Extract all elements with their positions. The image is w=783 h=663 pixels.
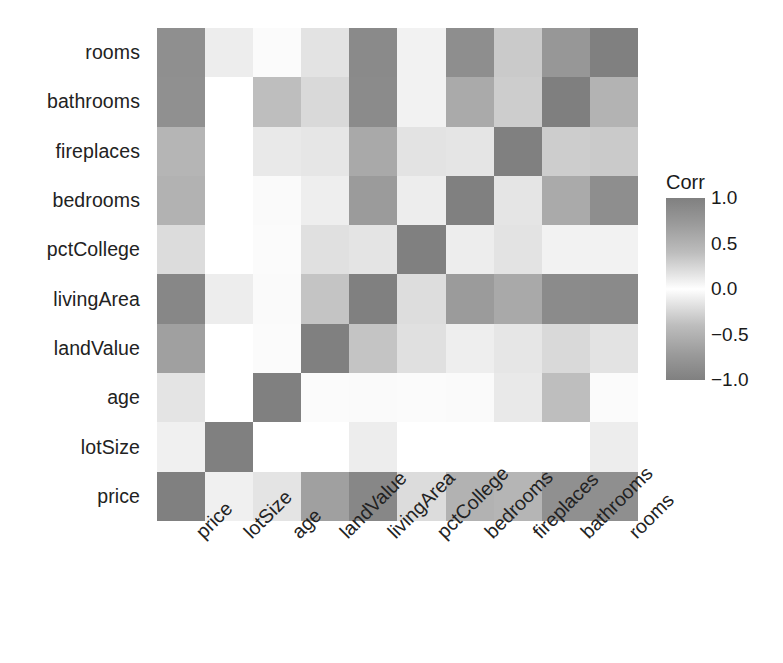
heatmap-cell <box>157 77 205 126</box>
heatmap-cell <box>494 324 542 373</box>
x-axis-tick-label: lotSize <box>239 527 255 543</box>
legend: Corr 1.00.50.0−0.5−1.0 <box>664 172 779 387</box>
heatmap-cell <box>253 127 301 176</box>
heatmap-cell <box>542 373 590 422</box>
heatmap-cell <box>349 127 397 176</box>
heatmap-cell <box>157 472 205 521</box>
heatmap-cell <box>397 324 445 373</box>
y-axis-tick-label: bathrooms <box>0 77 150 126</box>
heatmap-cell <box>590 28 638 77</box>
heatmap-cell <box>205 373 253 422</box>
heatmap-cell <box>253 28 301 77</box>
legend-tick-label: −0.5 <box>711 325 749 344</box>
heatmap-cell <box>590 274 638 323</box>
heatmap-cell <box>205 225 253 274</box>
heatmap-cell <box>542 274 590 323</box>
y-axis: rooms bathrooms fireplaces bedrooms pctC… <box>0 28 150 521</box>
heatmap-cell <box>542 127 590 176</box>
y-axis-tick-label: livingArea <box>0 274 150 323</box>
heatmap-cell <box>446 422 494 471</box>
heatmap-cell <box>349 28 397 77</box>
heatmap-cell <box>542 225 590 274</box>
heatmap-cell <box>446 274 494 323</box>
x-axis-tick-label: fireplaces <box>528 527 544 543</box>
heatmap-cell <box>542 28 590 77</box>
correlation-heatmap-plot: rooms bathrooms fireplaces bedrooms pctC… <box>0 0 783 663</box>
heatmap-cell <box>446 127 494 176</box>
heatmap-cell <box>301 274 349 323</box>
heatmap-cell <box>301 225 349 274</box>
heatmap-cell <box>349 274 397 323</box>
x-axis-tick-label: landValue <box>335 527 351 543</box>
heatmap-cell <box>205 77 253 126</box>
x-axis-tick-label: bathrooms <box>576 527 592 543</box>
heatmap-cell <box>397 28 445 77</box>
heatmap-cell <box>397 225 445 274</box>
heatmap-cell <box>157 176 205 225</box>
heatmap-grid <box>157 28 638 521</box>
heatmap-cell <box>301 324 349 373</box>
heatmap-cell <box>494 274 542 323</box>
legend-tick-label: 0.5 <box>711 234 737 253</box>
heatmap-cell <box>205 422 253 471</box>
heatmap-cell <box>301 77 349 126</box>
x-axis-tick-label: price <box>191 527 207 543</box>
heatmap-cell <box>301 422 349 471</box>
heatmap-cell <box>590 127 638 176</box>
legend-tick-label: 0.0 <box>711 279 737 298</box>
heatmap-cell <box>205 28 253 77</box>
heatmap-cell <box>494 373 542 422</box>
heatmap-cell <box>494 225 542 274</box>
heatmap-cell <box>253 422 301 471</box>
legend-tick-label: 1.0 <box>711 188 737 207</box>
heatmap-cell <box>542 422 590 471</box>
heatmap-cell <box>494 127 542 176</box>
heatmap-cell <box>205 127 253 176</box>
heatmap-cell <box>349 373 397 422</box>
heatmap-cell <box>590 225 638 274</box>
heatmap-cell <box>494 28 542 77</box>
heatmap-cell <box>253 225 301 274</box>
heatmap-cell <box>397 176 445 225</box>
heatmap-cell <box>157 225 205 274</box>
heatmap-cell <box>494 77 542 126</box>
heatmap-cell <box>397 274 445 323</box>
heatmap-cell <box>301 28 349 77</box>
heatmap-cell <box>157 324 205 373</box>
heatmap-cell <box>397 422 445 471</box>
heatmap-cell <box>301 176 349 225</box>
heatmap-cell <box>349 77 397 126</box>
heatmap-cell <box>157 28 205 77</box>
y-axis-tick-label: fireplaces <box>0 127 150 176</box>
heatmap-cell <box>397 373 445 422</box>
heatmap-cell <box>397 77 445 126</box>
heatmap-cell <box>157 373 205 422</box>
heatmap-cell <box>446 373 494 422</box>
x-axis-tick-label: livingArea <box>383 527 399 543</box>
heatmap-cell <box>253 324 301 373</box>
heatmap-cell <box>542 77 590 126</box>
heatmap-cell <box>253 77 301 126</box>
legend-body: 1.00.50.0−0.5−1.0 <box>664 198 779 384</box>
heatmap-cell <box>446 225 494 274</box>
heatmap-cell <box>205 176 253 225</box>
heatmap-cell <box>542 324 590 373</box>
heatmap-cell <box>590 422 638 471</box>
heatmap-cell <box>494 422 542 471</box>
y-axis-tick-label: lotSize <box>0 422 150 471</box>
heatmap-cell <box>349 422 397 471</box>
y-axis-tick-label: price <box>0 472 150 521</box>
x-axis-tick-label: pctCollege <box>432 527 448 543</box>
legend-tick-labels: 1.00.50.0−0.5−1.0 <box>711 198 777 380</box>
heatmap-cell <box>397 127 445 176</box>
heatmap-cell <box>349 176 397 225</box>
heatmap-panel <box>157 28 638 521</box>
heatmap-cell <box>157 127 205 176</box>
heatmap-cell <box>157 422 205 471</box>
y-axis-tick-label: pctCollege <box>0 225 150 274</box>
heatmap-cell <box>446 324 494 373</box>
heatmap-cell <box>253 176 301 225</box>
heatmap-cell <box>590 373 638 422</box>
heatmap-cell <box>446 77 494 126</box>
heatmap-cell <box>590 77 638 126</box>
